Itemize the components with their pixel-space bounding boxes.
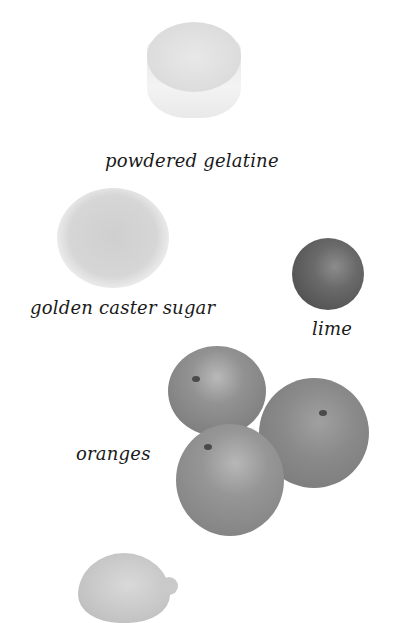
- sugar-bowl-image: [57, 188, 169, 288]
- orange-navel: [192, 376, 200, 382]
- ramekin-top: [147, 22, 241, 92]
- bowl-rim: [57, 188, 169, 288]
- label-golden-caster-sugar: golden caster sugar: [30, 297, 215, 318]
- orange-navel: [319, 410, 327, 416]
- lime-image: [292, 238, 364, 310]
- orange-navel: [204, 444, 212, 450]
- label-lime: lime: [312, 318, 352, 339]
- lemon-image: [78, 553, 170, 623]
- label-oranges: oranges: [76, 443, 151, 464]
- orange-image-3: [176, 424, 284, 536]
- lemon-tip: [160, 577, 178, 595]
- label-powdered-gelatine: powdered gelatine: [105, 150, 279, 171]
- orange-image-1: [168, 346, 266, 436]
- gelatine-ramekin-image: [147, 22, 241, 122]
